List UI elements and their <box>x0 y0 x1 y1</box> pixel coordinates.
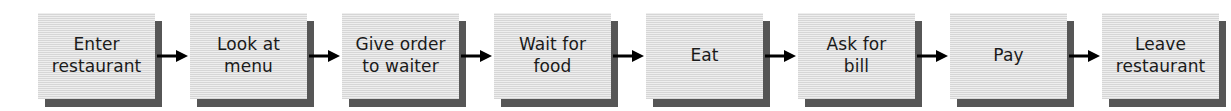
step-label: Pay <box>993 45 1023 66</box>
box-face: Enter restaurant <box>38 13 155 99</box>
process-step-pay[interactable]: Pay <box>950 13 1067 99</box>
box-face: Pay <box>950 13 1067 99</box>
process-flow-row: Enter restaurant Look at menu <box>0 0 1231 111</box>
arrow-right-icon <box>613 50 644 62</box>
step-label: Leave restaurant <box>1116 34 1206 77</box>
arrow-right-icon <box>1069 50 1100 62</box>
connector-arrow-2 <box>307 13 342 99</box>
box-face: Eat <box>646 13 763 99</box>
arrow-right-icon <box>461 50 492 62</box>
process-step-wait-for-food[interactable]: Wait for food <box>494 13 611 99</box>
connector-arrow-4 <box>611 13 646 99</box>
process-step-look-at-menu[interactable]: Look at menu <box>190 13 307 99</box>
connector-arrow-7 <box>1067 13 1102 99</box>
step-label: Give order to waiter <box>355 34 445 77</box>
step-label: Eat <box>690 45 718 66</box>
step-label: Enter restaurant <box>52 34 142 77</box>
connector-arrow-1 <box>155 13 190 99</box>
box-face: Give order to waiter <box>342 13 459 99</box>
box-face: Ask for bill <box>798 13 915 99</box>
process-step-give-order-to-waiter[interactable]: Give order to waiter <box>342 13 459 99</box>
flowchart-canvas: Enter restaurant Look at menu <box>0 0 1231 111</box>
arrow-right-icon <box>917 50 948 62</box>
step-label: Wait for food <box>519 34 586 77</box>
connector-arrow-6 <box>915 13 950 99</box>
box-face: Look at menu <box>190 13 307 99</box>
arrow-right-icon <box>765 50 796 62</box>
box-face: Leave restaurant <box>1102 13 1219 99</box>
step-label: Look at menu <box>217 34 280 77</box>
process-step-leave-restaurant[interactable]: Leave restaurant <box>1102 13 1219 99</box>
process-step-eat[interactable]: Eat <box>646 13 763 99</box>
step-label: Ask for bill <box>827 34 887 77</box>
arrow-right-icon <box>309 50 340 62</box>
box-face: Wait for food <box>494 13 611 99</box>
arrow-right-icon <box>157 50 188 62</box>
connector-arrow-3 <box>459 13 494 99</box>
process-step-ask-for-bill[interactable]: Ask for bill <box>798 13 915 99</box>
process-step-enter-restaurant[interactable]: Enter restaurant <box>38 13 155 99</box>
connector-arrow-5 <box>763 13 798 99</box>
